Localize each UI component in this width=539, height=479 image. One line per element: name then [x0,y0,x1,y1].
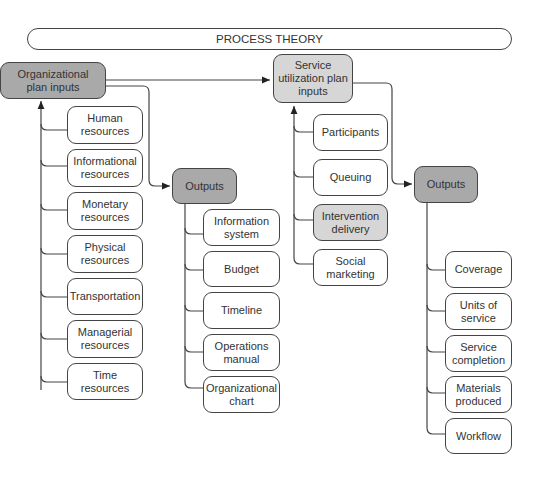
input-participants: Participants [313,114,388,151]
process-theory-title: PROCESS THEORY [27,28,512,50]
input-monetary-resources: Monetary resources [67,192,143,230]
output-service-completion: Service completion [445,335,512,372]
input-managerial-resources: Managerial resources [67,320,143,358]
input-human-resources: Human resources [67,106,143,144]
input-time-resources: Time resources [67,363,143,400]
input-informational-resources: Informational resources [67,149,143,187]
output-workflow: Workflow [445,418,512,454]
service-outputs-node: Outputs [414,166,478,203]
output-operations-manual: Operations manual [203,334,280,371]
service-utilization-plan-inputs-node: Service utilization plan inputs [273,54,353,103]
output-materials-produced: Materials produced [445,376,512,413]
output-timeline: Timeline [203,292,280,329]
output-units-of-service: Units of service [445,293,512,330]
organizational-plan-inputs-node: Organizational plan inputs [0,62,106,99]
input-queuing: Queuing [313,159,388,196]
organizational-outputs-node: Outputs [172,168,237,204]
output-coverage: Coverage [445,251,512,288]
input-social-marketing: Social marketing [313,249,388,286]
output-information-system: Information system [203,209,280,246]
input-physical-resources: Physical resources [67,235,143,273]
output-budget: Budget [203,251,280,287]
input-transportation: Transportation [67,278,143,315]
input-intervention-delivery: Intervention delivery [313,204,388,241]
output-organizational-chart: Organizational chart [203,376,280,413]
